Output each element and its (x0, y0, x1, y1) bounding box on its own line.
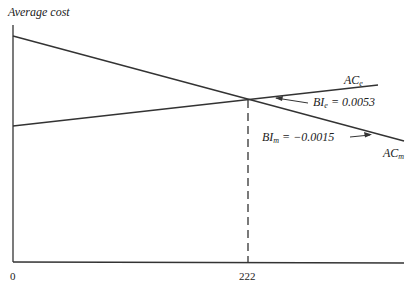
x-axis (13, 262, 404, 263)
break-even-chart: Average cost 0 222 ACe BIe = 0.0053 BIm … (0, 0, 412, 289)
bie-annotation: BIe = 0.0053 (313, 95, 375, 110)
ace-label: ACe (343, 73, 363, 88)
y-axis-label: Average cost (7, 5, 70, 19)
acm-label: ACm (382, 146, 404, 161)
x-tick-0: 0 (10, 270, 16, 282)
x-tick-222: 222 (239, 270, 256, 282)
bim-arrowhead-icon (364, 132, 372, 138)
bim-annotation: BIm = −0.0015 (262, 130, 334, 145)
